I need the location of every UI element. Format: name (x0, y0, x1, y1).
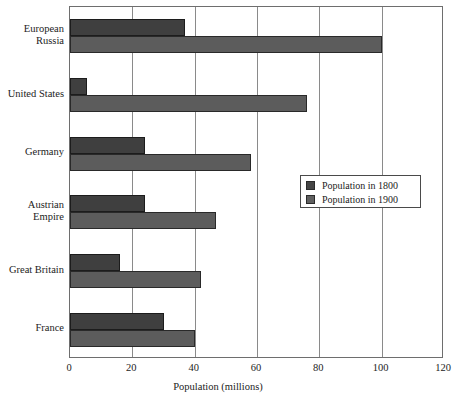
y-axis-label: EuropeanRussia (0, 23, 64, 48)
bar (70, 254, 120, 271)
legend-label-1800: Population in 1800 (322, 180, 398, 191)
gridline-60 (257, 7, 258, 357)
x-tick-label-100: 100 (373, 362, 389, 373)
legend-swatch-1900 (306, 195, 315, 204)
x-tick-label-20: 20 (126, 362, 137, 373)
bar (70, 36, 382, 53)
y-axis-label: France (0, 322, 64, 335)
bar (70, 313, 164, 330)
y-axis-label-line: Austrian (0, 199, 64, 212)
bar (70, 212, 216, 229)
y-axis-label-line: France (0, 322, 64, 335)
y-axis-label-line: Germany (0, 146, 64, 159)
bar (70, 271, 201, 288)
legend: Population in 1800 Population in 1900 (300, 175, 421, 208)
bar (70, 95, 307, 112)
legend-swatch-1800 (306, 181, 315, 190)
legend-item-1800: Population in 1800 (306, 179, 416, 192)
bar (70, 19, 185, 36)
bar (70, 195, 145, 212)
y-axis-label: United States (0, 88, 64, 101)
y-axis-label-line: Great Britain (0, 264, 64, 277)
bar-chart: EuropeanRussiaUnited StatesGermanyAustri… (0, 0, 456, 402)
y-axis-label: Great Britain (0, 264, 64, 277)
gridline-20 (132, 7, 133, 357)
bar (70, 330, 195, 347)
bar (70, 154, 251, 171)
bar (70, 137, 145, 154)
y-axis-label: AustrianEmpire (0, 199, 64, 224)
x-axis-title: Population (millions) (0, 381, 456, 392)
x-axis-title-text: Population (millions) (173, 381, 263, 392)
legend-item-1900: Population in 1900 (306, 193, 416, 206)
gridline-40 (195, 7, 196, 357)
x-tick-label-80: 80 (313, 362, 324, 373)
x-tick-label-40: 40 (188, 362, 199, 373)
y-axis-label-line: European (0, 23, 64, 36)
bar (70, 78, 87, 95)
legend-label-1900: Population in 1900 (322, 194, 398, 205)
y-axis-label-line: United States (0, 88, 64, 101)
y-axis-label-line: Empire (0, 211, 64, 224)
x-tick-label-60: 60 (251, 362, 262, 373)
x-tick-label-0: 0 (66, 362, 71, 373)
y-axis-label-line: Russia (0, 35, 64, 48)
x-tick-label-120: 120 (435, 362, 451, 373)
y-axis-label: Germany (0, 146, 64, 159)
